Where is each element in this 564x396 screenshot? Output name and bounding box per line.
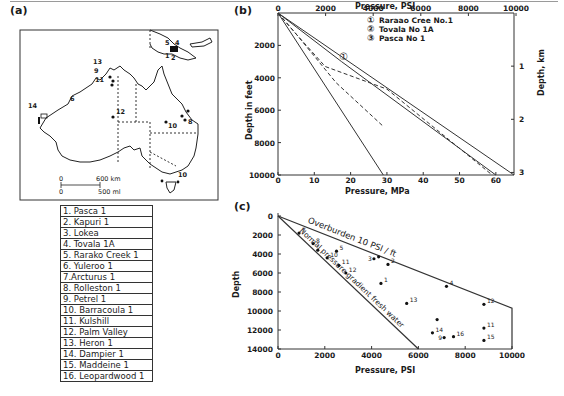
chart-c-data-point [372,257,375,260]
chart-c-data-point [452,335,455,338]
chart-c-data-point [445,285,448,288]
chart-c-x-tick-label: 4000 [361,351,382,360]
chart-c-point-label: 9 [438,334,442,341]
chart-c-point-label: 15 [487,333,495,340]
chart-c-data-point [326,256,329,259]
chart-c-x-tick-label: 2000 [314,351,335,360]
chart-c-data-point [386,263,389,266]
chart-c-y-tick-label: 4000 [252,250,273,259]
chart-c-y-tick-label: 14000 [247,345,273,354]
chart-c-point-label: 12 [349,266,357,273]
chart-c-point-label: 5 [340,244,344,251]
chart-c-data-point [377,255,380,258]
chart-c-point-label: 16 [457,330,465,337]
chart-c-data-point [482,303,485,306]
chart-c-x-tick-label: 8000 [455,351,476,360]
chart-c-point-label: 14 [435,326,443,333]
chart-c-data-point [344,271,347,274]
chart-c-data-point [482,339,485,342]
chart-c-y-tick-label: 0 [268,212,273,221]
chart-c-data-point [312,242,315,245]
chart-c-xlabel: Pressure, PSI [355,366,415,375]
chart-c-pressure-depth-scatter: Pressure, PSI Depth 02000400060008000100… [0,0,564,396]
chart-c-ylabel: Depth [232,270,241,298]
chart-c-data-point [443,336,446,339]
chart-c-data-point [379,282,382,285]
chart-c-y-tick-label: 2000 [252,231,273,240]
chart-c-data-point [337,264,340,267]
chart-c-x-tick-label: 10000 [499,351,525,360]
chart-c-point-label: 13 [410,296,418,303]
chart-c-y-tick-label: 6000 [252,269,273,278]
chart-c-x-tick-label: 0 [275,351,280,360]
chart-c-y-tick-label: 8000 [252,288,273,297]
chart-c-point-label: 10 [330,251,338,258]
chart-c-point-label: 11 [342,258,350,265]
chart-c-y-tick-label: 12000 [247,326,273,335]
chart-c-point-label: 4 [449,279,453,286]
chart-c-point-label: 3 [368,255,372,262]
chart-c-data-point [297,232,300,235]
chart-c-data-point [316,249,319,252]
chart-c-data-point [482,327,485,330]
chart-c-point-label: 11 [487,321,495,328]
chart-c-data-point [431,331,434,334]
chart-c-data-point [405,302,408,305]
chart-c-point-label: 8 [316,237,320,244]
chart-c-data-point [436,318,439,321]
chart-c-axes [278,213,512,349]
chart-c-point-label: 2 [391,257,395,264]
chart-c-y-tick-label: 10000 [247,307,273,316]
chart-c-point-label: 7 [302,226,306,233]
chart-c-point-label: 12 [487,297,495,304]
chart-c-point-label: 1 [384,276,388,283]
chart-c-x-tick-label: 6000 [408,351,429,360]
